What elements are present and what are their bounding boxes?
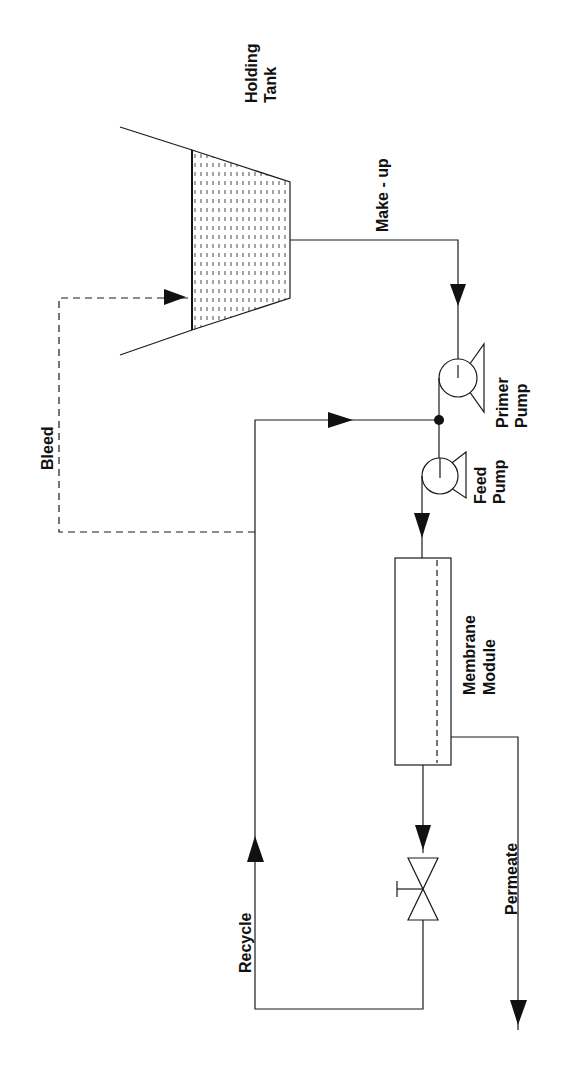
tank-wall-top xyxy=(120,127,192,150)
holding-tank-label-1: Holding xyxy=(243,43,260,103)
arrow-right-icon xyxy=(328,412,353,428)
tank-liquid xyxy=(192,150,290,330)
arrow-down-icon xyxy=(414,513,430,538)
make-up-line xyxy=(290,240,466,378)
process-flow-diagram: Holding Tank Make - up Primer Pump Feed … xyxy=(0,0,574,1070)
permeate-label: Permeate xyxy=(503,843,520,915)
retentate-line xyxy=(415,765,431,853)
feed-pump-icon xyxy=(414,452,466,558)
holding-tank xyxy=(120,127,290,355)
membrane-module-icon xyxy=(395,558,451,765)
feed-pump-label-2: Pump xyxy=(491,459,508,504)
arrow-down-icon xyxy=(510,1000,527,1025)
make-up-label: Make - up xyxy=(374,158,391,232)
control-valve-icon[interactable] xyxy=(397,858,438,920)
primer-pump-label-1: Primer xyxy=(494,377,511,428)
arrow-down-icon xyxy=(415,825,431,850)
arrow-down-icon xyxy=(450,284,466,306)
tank-wall-bottom xyxy=(120,330,192,355)
membrane-module-label-2: Module xyxy=(481,639,498,695)
feed-pump-label-1: Feed xyxy=(472,467,489,504)
bleed-line xyxy=(59,289,255,532)
holding-tank-label-2: Tank xyxy=(262,67,279,103)
bleed-label: Bleed xyxy=(39,426,56,470)
arrow-right-icon xyxy=(164,289,186,305)
primer-pump-icon xyxy=(439,344,484,412)
primer-pump-label-2: Pump xyxy=(513,383,530,428)
membrane-module-label-1: Membrane xyxy=(461,615,478,695)
recycle-label: Recycle xyxy=(237,912,254,973)
arrow-up-icon xyxy=(247,836,264,862)
